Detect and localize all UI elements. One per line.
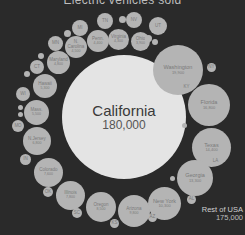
bubble-filler [155,28,161,34]
bubble-value: 4,800 [54,63,63,67]
bubble-label: AZ [150,215,156,220]
bubble-value: 9,800 [130,212,139,216]
bubble-florida: Florida 16,800 [188,84,230,126]
bubble-filler [24,71,30,77]
bubble-ct: CT [30,60,44,74]
bubble-value: 7,800 [66,196,75,200]
bubble-value: 19,900 [172,71,184,75]
bubble-penn: Penn. 4,400 [87,30,109,52]
bubble-colorado: Colorado 7,600 [34,158,63,187]
bubble-label: TN [102,19,108,24]
bubble-value: 4,500 [72,50,81,54]
bubble-filler [152,39,158,45]
bubble-hawaii: Hawaii 5,300 [33,74,57,98]
bubble-value: 4,400 [94,42,103,46]
bubble-label: IN [23,157,28,162]
bubble-maryland: Maryland 4,800 [47,51,70,74]
bubble-oregon: Oregon 8,500 [86,192,116,222]
bubble-mi: MI [72,20,88,36]
bubble-value: 7,600 [44,173,53,177]
bubble-mn: MN [48,36,63,51]
bubble-wi: WI [16,87,30,101]
bubble-value: 13,300 [189,179,201,183]
bubble-filler [170,176,175,181]
bubble-ny-small: NY [207,63,216,72]
bubble-n-carolina: N. Carolina 4,500 [65,36,87,58]
bubble-label: NV [131,18,137,23]
bubble-label: SC [74,211,80,216]
bubble-al: AL [187,195,196,204]
bubble-in: IN [20,154,31,165]
bubble-new-jersey: N.Jersey 6,800 [23,127,51,155]
bubble-filler [18,112,23,117]
bubble-ky: KY [182,83,191,92]
bubble-ks: KS [110,219,119,228]
bubble-label: MO [14,124,21,129]
bubble-value: 5,300 [41,87,50,91]
bubble-label: NY [208,65,214,70]
chart-title: Electric vehicles sold [0,0,245,7]
bubble-value: 5,500 [32,113,41,117]
bubble-value: 10,300 [158,204,170,208]
bubble-value: 14,400 [205,148,217,152]
bubble-label: LA [213,159,219,164]
bubble-georgia: Georgia 13,300 [177,160,213,196]
rest-value: 175,000 [197,214,243,222]
bubble-illinois: Illinois 7,800 [56,181,85,210]
bubble-label: KS [111,221,117,226]
bubble-virginia: Virginia 4,300 [108,29,129,50]
bubble-mass: Mass. 5,500 [24,100,49,125]
bubble-tn: TN [97,13,113,29]
bubble-la: LA [211,157,220,166]
bubble-value: 3,900 [136,42,145,46]
bubble-value: 180,000 [102,119,145,132]
bubble-label: KY [183,85,189,90]
bubble-arizona: Arizona 9,800 [118,195,150,227]
bubble-label: MN [52,41,59,46]
bubble-az-small: AZ [148,213,157,222]
bubble-value: 8,500 [97,208,106,212]
bubble-value: 16,800 [203,106,215,110]
bubble-label: OK [45,190,52,195]
bubble-filler [182,123,187,128]
bubble-sc: SC [72,208,82,218]
rest-of-usa-label: Rest of USA 175,000 [197,206,243,223]
bubble-value: 6,800 [33,142,42,146]
bubble-label: AL [189,197,195,202]
bubble-filler [64,30,71,37]
bubble-filler [18,105,23,110]
bubble-value: 4,300 [114,40,123,44]
bubble-filler [38,53,44,59]
bubble-mo: MO [12,120,24,132]
bubble-label: MI [78,26,83,31]
bubble-label: WI [20,92,26,97]
bubble-filler [145,35,152,42]
bubble-filler [119,16,126,23]
bubble-ok: OK [43,187,53,197]
bubble-label: CT [34,65,40,70]
bubble-label: California [92,103,155,119]
bubble-nv: NV [126,12,142,28]
